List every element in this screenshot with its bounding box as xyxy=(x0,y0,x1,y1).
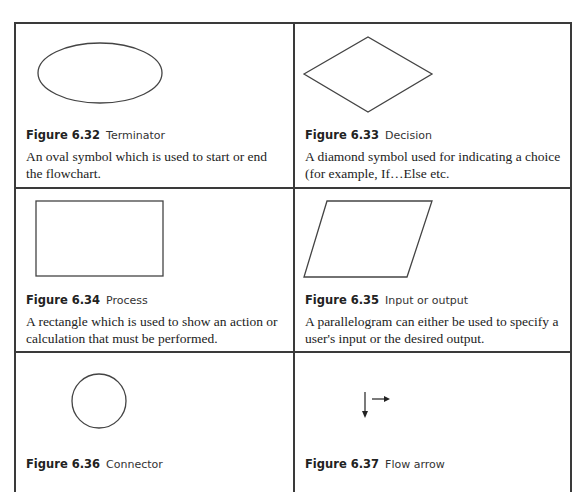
flowchart-symbols-table: Figure 6.32Terminator An oval symbol whi… xyxy=(14,22,572,492)
diamond-icon xyxy=(303,36,435,116)
figure-caption: Figure 6.32Terminator xyxy=(26,128,165,142)
figure-caption: Figure 6.36Connector xyxy=(26,457,163,471)
figure-number: Figure 6.32 xyxy=(26,128,100,142)
figure-name: Terminator xyxy=(106,129,165,142)
figure-number: Figure 6.33 xyxy=(305,128,379,142)
figure-cell-connector: Figure 6.36Connector xyxy=(16,353,293,494)
figure-name: Decision xyxy=(385,129,432,142)
figure-description: An oval symbol which is used to start or… xyxy=(26,148,285,182)
figure-name: Process xyxy=(106,294,148,307)
figure-number: Figure 6.35 xyxy=(305,293,379,307)
figure-caption: Figure 6.34Process xyxy=(26,293,148,307)
figure-cell-input-output: Figure 6.35Input or output A parallelogr… xyxy=(295,189,572,351)
figure-caption: Figure 6.37Flow arrow xyxy=(305,457,445,471)
figure-cell-flow-arrow: Figure 6.37Flow arrow xyxy=(295,353,572,494)
figure-caption: Figure 6.33Decision xyxy=(305,128,432,142)
oval-icon xyxy=(36,42,166,106)
figure-caption: Figure 6.35Input or output xyxy=(305,293,468,307)
figure-number: Figure 6.36 xyxy=(26,457,100,471)
figure-description: A rectangle which is used to show an act… xyxy=(26,313,285,347)
figure-name: Input or output xyxy=(385,294,468,307)
circle-icon xyxy=(71,373,131,433)
figure-cell-process: Figure 6.34Process A rectangle which is … xyxy=(16,189,293,351)
figure-description: A parallelogram can either be used to sp… xyxy=(305,313,564,347)
figure-name: Flow arrow xyxy=(385,458,445,471)
rectangle-icon xyxy=(35,200,165,278)
figure-description: A diamond symbol used for indicating a c… xyxy=(305,148,564,182)
figure-cell-terminator: Figure 6.32Terminator An oval symbol whi… xyxy=(16,24,293,187)
figure-number: Figure 6.34 xyxy=(26,293,100,307)
figure-cell-decision: Figure 6.33Decision A diamond symbol use… xyxy=(295,24,572,187)
parallelogram-icon xyxy=(303,200,435,280)
figure-name: Connector xyxy=(106,458,163,471)
figure-number: Figure 6.37 xyxy=(305,457,379,471)
arrow-icon xyxy=(355,391,395,423)
